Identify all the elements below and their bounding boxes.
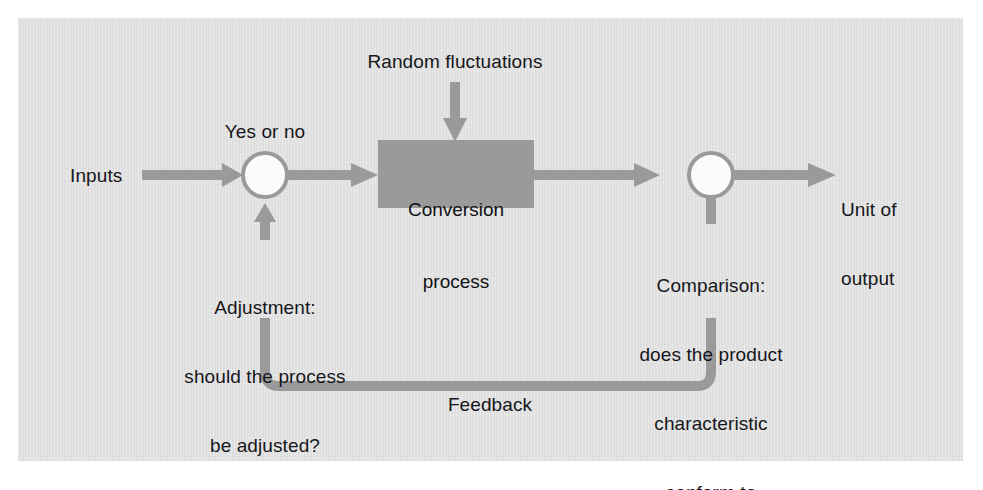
decision-node [243,153,287,197]
diagram-node-layer [0,0,983,490]
comparison-node [689,153,733,197]
diagram-figure: .ln { stroke: #9a9a9a; fill: none; } .fl… [0,0,983,490]
